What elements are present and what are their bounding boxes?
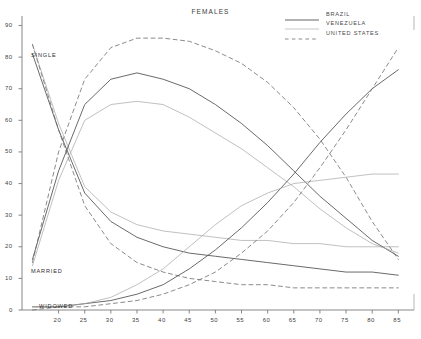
- annotation-single: SINGLE: [31, 52, 57, 58]
- series-line-brazil-widowed: [32, 70, 398, 307]
- x-tick-label: 50: [210, 317, 218, 323]
- y-tick-label: 50: [5, 148, 13, 154]
- y-tick-label: 80: [5, 54, 13, 60]
- series-line-brazil-single: [32, 54, 398, 275]
- x-tick-label: 85: [393, 317, 401, 323]
- plot-area: [0, 0, 421, 339]
- series-line-unitedstates-married: [32, 38, 398, 262]
- x-tick-label: 30: [106, 317, 114, 323]
- x-tick-label: 25: [80, 317, 88, 323]
- y-tick-label: 70: [5, 85, 13, 91]
- chart-page: FEMALES BRAZIL VENEZUELA UNITED STATES 0…: [0, 0, 421, 339]
- x-tick-label: 20: [54, 317, 62, 323]
- annotation-married: MARRIED: [31, 268, 63, 274]
- x-tick-label: 65: [289, 317, 297, 323]
- y-tick-label: 20: [5, 243, 13, 249]
- y-tick-label: 90: [5, 22, 13, 28]
- series-line-unitedstates-widowed: [32, 48, 398, 310]
- x-tick-label: 45: [184, 317, 192, 323]
- series-line-venezuela-married: [32, 101, 398, 265]
- annotation-widowed: WIDOWED: [39, 303, 73, 309]
- y-tick-label: 0: [9, 307, 13, 313]
- x-tick-label: 75: [341, 317, 349, 323]
- x-tick-label: 60: [263, 317, 271, 323]
- axes: [19, 16, 415, 314]
- series-line-venezuela-widowed: [32, 174, 398, 307]
- data-curves: [32, 38, 398, 310]
- x-tick-label: 80: [367, 317, 375, 323]
- x-tick-label: 40: [158, 317, 166, 323]
- x-tick-label: 70: [315, 317, 323, 323]
- series-line-unitedstates-single: [32, 44, 398, 287]
- x-tick-label: 55: [237, 317, 245, 323]
- y-tick-label: 40: [5, 180, 13, 186]
- y-tick-label: 10: [5, 275, 13, 281]
- y-tick-label: 60: [5, 117, 13, 123]
- series-line-brazil-married: [32, 73, 398, 260]
- y-tick-label: 30: [5, 212, 13, 218]
- x-tick-label: 35: [132, 317, 140, 323]
